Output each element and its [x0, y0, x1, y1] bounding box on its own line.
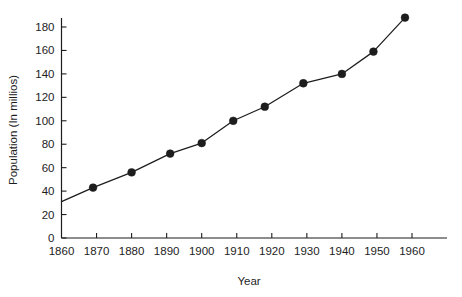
- x-tick-label: 1960: [399, 245, 425, 257]
- data-point: [198, 139, 206, 147]
- x-axis-title: Year: [237, 275, 260, 287]
- data-point: [128, 168, 136, 176]
- y-tick-label: 0: [48, 232, 54, 244]
- y-tick-label: 180: [35, 21, 54, 33]
- data-point: [370, 48, 378, 56]
- x-axis-tick-labels: 1860187018801890190019101920193019401950…: [49, 245, 425, 257]
- y-tick-label: 40: [42, 185, 55, 197]
- data-point: [261, 103, 269, 111]
- x-tick-label: 1930: [294, 245, 320, 257]
- x-tick-label: 1950: [364, 245, 390, 257]
- data-point: [299, 79, 307, 87]
- y-tick-label: 140: [35, 68, 54, 80]
- x-tick-label: 1870: [84, 245, 110, 257]
- y-tick-label: 20: [42, 209, 55, 221]
- line-chart: 020406080100120140160180 186018701880189…: [0, 0, 462, 297]
- chart-figure: 020406080100120140160180 186018701880189…: [0, 0, 462, 297]
- x-tick-label: 1910: [224, 245, 250, 257]
- data-point: [89, 184, 97, 192]
- x-tick-label: 1940: [329, 245, 355, 257]
- data-point: [338, 70, 346, 78]
- x-tick-label: 1860: [49, 245, 75, 257]
- y-tick-label: 60: [42, 162, 55, 174]
- y-tick-label: 160: [35, 44, 54, 56]
- data-point: [401, 14, 409, 22]
- x-tick-label: 1880: [119, 245, 145, 257]
- data-point: [166, 150, 174, 158]
- y-tick-label: 80: [42, 138, 55, 150]
- data-point: [229, 117, 237, 125]
- x-tick-label: 1890: [154, 245, 180, 257]
- x-tick-label: 1900: [189, 245, 215, 257]
- y-axis-title: Population (In millios): [7, 75, 19, 185]
- x-tick-label: 1920: [259, 245, 285, 257]
- y-tick-label: 100: [35, 115, 54, 127]
- y-tick-label: 120: [35, 91, 54, 103]
